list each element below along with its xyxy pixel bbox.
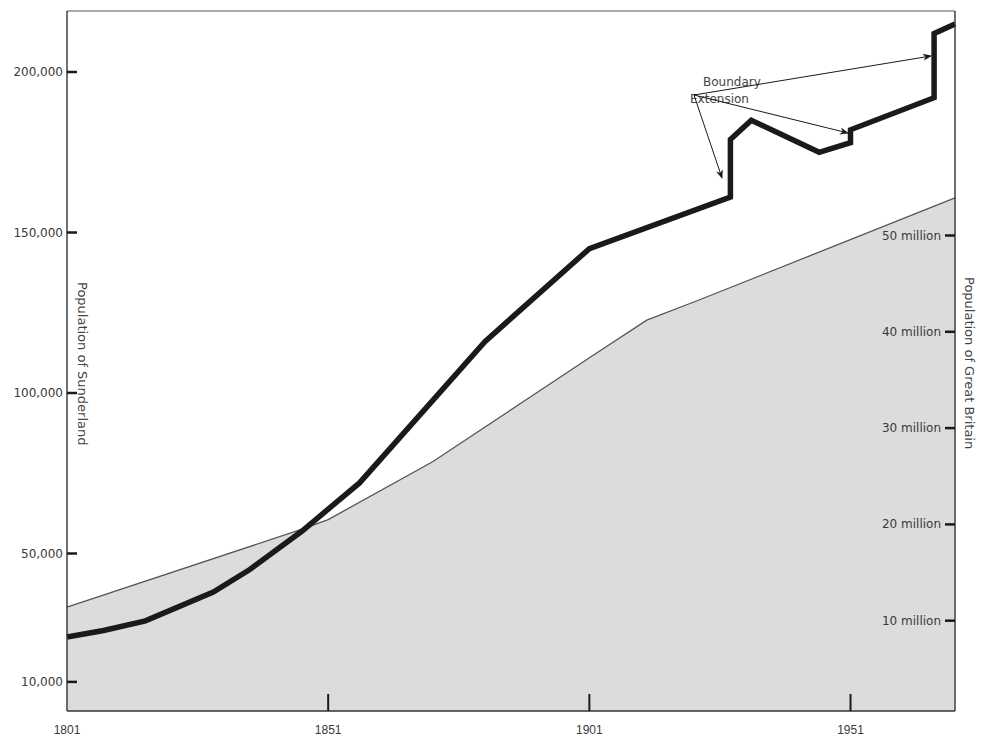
right-axis-title: Population of Great Britain	[962, 277, 977, 449]
x-tick-label: 1901	[576, 723, 603, 737]
right-tick-label: 20 million	[882, 517, 941, 531]
right-tick-label: 10 million	[882, 614, 941, 628]
right-tick-label: 40 million	[882, 325, 941, 339]
left-tick-label: 100,000	[13, 386, 63, 400]
annotation-label-line1: Boundary	[703, 75, 761, 89]
left-tick-label: 150,000	[13, 226, 63, 240]
x-tick-label: 1851	[315, 723, 342, 737]
population-chart: 1801185119011951 10,00050,000100,000150,…	[0, 0, 989, 746]
right-tick-label: 50 million	[882, 229, 941, 243]
left-tick-label: 50,000	[21, 547, 63, 561]
x-tick-label: 1801	[54, 723, 81, 737]
left-tick-label: 200,000	[13, 65, 63, 79]
right-tick-label: 30 million	[882, 421, 941, 435]
left-tick-label: 10,000	[21, 675, 63, 689]
x-tick-label: 1951	[837, 723, 864, 737]
left-axis-title: Population of Sunderland	[75, 282, 90, 446]
